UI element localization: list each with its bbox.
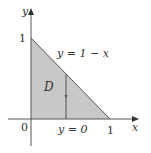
y-axis-label: y xyxy=(21,5,29,18)
diagram-canvas: y 1 y = 1 − x D 0 y = 0 1 x xyxy=(0,0,151,153)
upper-boundary-label: y = 1 − x xyxy=(56,47,110,60)
lower-boundary-label: y = 0 xyxy=(57,123,87,136)
origin-label: 0 xyxy=(21,121,28,134)
x-tick-label: 1 xyxy=(107,124,114,137)
region-label: D xyxy=(43,80,54,94)
region-diagram: y 1 y = 1 − x D 0 y = 0 1 x xyxy=(0,0,151,153)
y-tick-label: 1 xyxy=(19,32,26,45)
x-axis-label: x xyxy=(132,121,139,134)
y-axis-arrow-icon xyxy=(28,8,34,15)
